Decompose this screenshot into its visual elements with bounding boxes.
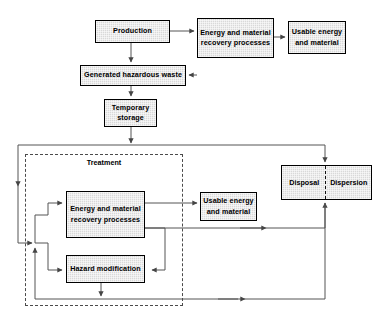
node-dispersion-label: Dispersion — [327, 178, 372, 187]
node-recovery-processes-top-label: Energy and material recovery processes — [200, 28, 271, 49]
node-recovery-processes-treatment[interactable]: Energy and material recovery processes — [66, 191, 145, 238]
node-hazard-modification[interactable]: Hazard modification — [66, 255, 145, 283]
treatment-boundary-label: Treatment — [25, 158, 183, 167]
node-generated-hazardous-waste-label: Generated hazardous waste — [83, 70, 183, 80]
node-recovery-processes-top[interactable]: Energy and material recovery processes — [197, 18, 274, 58]
node-temporary-storage-label: Temporary storage — [107, 103, 154, 124]
node-usable-energy-top[interactable]: Usable energy and material — [288, 21, 346, 54]
node-temporary-storage[interactable]: Temporary storage — [104, 99, 157, 127]
disposal-dispersion-divider — [325, 166, 326, 199]
node-recovery-processes-treatment-label: Energy and material recovery processes — [69, 204, 142, 225]
node-production[interactable]: Production — [95, 20, 170, 43]
node-production-label: Production — [98, 26, 167, 36]
node-disposal-dispersion[interactable]: Disposal Dispersion — [281, 165, 372, 200]
node-disposal-label: Disposal — [282, 178, 327, 187]
node-usable-energy-treatment-label: Usable energy and material — [203, 196, 254, 217]
node-usable-energy-treatment[interactable]: Usable energy and material — [200, 192, 257, 221]
flowchart-diagram: Treatment Production Energy and material… — [0, 0, 387, 332]
node-hazard-modification-label: Hazard modification — [69, 264, 142, 274]
node-usable-energy-top-label: Usable energy and material — [291, 27, 343, 48]
node-generated-hazardous-waste[interactable]: Generated hazardous waste — [80, 65, 186, 86]
